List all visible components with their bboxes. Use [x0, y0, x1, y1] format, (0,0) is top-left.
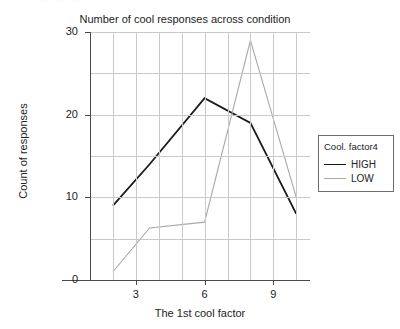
y-axis-tick-label: 20: [38, 108, 78, 120]
legend-entries: HIGHLOW: [324, 157, 389, 185]
gridline-x: [250, 32, 251, 280]
legend-title: Cool. factor4: [324, 141, 389, 152]
legend-item-high[interactable]: HIGH: [324, 157, 389, 171]
x-axis-tick: [273, 280, 274, 285]
gridline-y: [90, 115, 310, 116]
gridline-x: [228, 32, 229, 280]
gridline-x: [159, 32, 160, 280]
y-axis-title: Count of responses: [17, 81, 29, 221]
legend-item-low[interactable]: LOW: [324, 171, 389, 185]
gridline-y: [90, 32, 310, 33]
y-axis-line: [90, 32, 91, 281]
gridline-y: [90, 73, 310, 74]
legend: Cool. factor4 HIGHLOW: [318, 135, 394, 192]
x-axis-tick-label: 9: [258, 288, 288, 300]
gridline-x: [273, 32, 274, 280]
gridline-y: [90, 197, 310, 198]
y-axis-tick-label: 10: [38, 190, 78, 202]
y-axis-tick: [85, 32, 90, 33]
plot-area: [90, 32, 310, 280]
line-chart: Number of cool responses across conditio…: [0, 0, 400, 329]
gridline-x: [182, 32, 183, 280]
y-axis-tick-label: 0: [38, 273, 78, 285]
legend-item-label: HIGH: [351, 159, 376, 170]
gridline-y: [90, 239, 310, 240]
x-axis-tick-label: 6: [190, 288, 220, 300]
y-axis-tick-label: 30: [38, 25, 78, 37]
legend-item-label: LOW: [351, 173, 374, 184]
gridline-x: [205, 32, 206, 280]
gridline-x: [136, 32, 137, 280]
x-axis-tick-label: 3: [121, 288, 151, 300]
chart-title: Number of cool responses across conditio…: [60, 13, 310, 25]
y-axis-tick: [85, 280, 90, 281]
y-axis-tick: [85, 197, 90, 198]
x-axis-title: The 1st cool factor: [100, 307, 300, 319]
gridline-x: [296, 32, 297, 280]
y-axis-tick: [85, 115, 90, 116]
gridline-x: [113, 32, 114, 280]
legend-swatch-icon: [324, 164, 346, 165]
legend-swatch-icon: [324, 178, 346, 179]
x-axis-tick: [205, 280, 206, 285]
gridline-y: [90, 156, 310, 157]
x-axis-tick: [136, 280, 137, 285]
